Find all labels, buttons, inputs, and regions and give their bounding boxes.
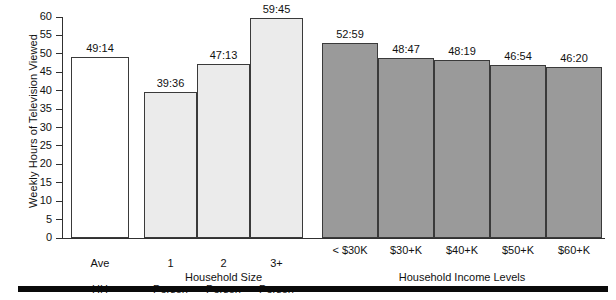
bar[interactable] xyxy=(490,65,546,238)
category-label-line1: 3+ xyxy=(250,257,303,270)
category-label-line1: Ave xyxy=(71,257,129,270)
category-label-50k: $50+K xyxy=(490,244,546,257)
bar[interactable] xyxy=(250,18,303,238)
category-label-40k: $40+K xyxy=(434,244,490,257)
tv-viewing-bar-chart: Weekly Hours of Television Viewed 605550… xyxy=(0,0,616,300)
category-label-30k: $30+K xyxy=(378,244,434,257)
bar-value-label: 59:45 xyxy=(244,3,309,15)
group-label-household-income-levels: Household Income Levels xyxy=(322,271,602,283)
category-label-under-30k: < $30K xyxy=(322,244,378,257)
bar[interactable] xyxy=(434,60,490,238)
bar-value-label: 47:13 xyxy=(191,49,256,61)
bar-value-label: 52:59 xyxy=(316,28,384,40)
bar[interactable] xyxy=(197,64,250,238)
bar[interactable] xyxy=(322,43,378,238)
bar-value-label: 46:20 xyxy=(540,52,608,64)
bar-value-label: 39:36 xyxy=(138,77,203,89)
category-label-line1: 1 xyxy=(144,257,197,270)
group-label-household-size: Household Size xyxy=(144,271,303,283)
category-label-60k: $60+K xyxy=(546,244,602,257)
bar[interactable] xyxy=(378,58,434,238)
bottom-rule xyxy=(18,286,608,292)
bar[interactable] xyxy=(546,67,602,238)
category-label-line1: 2 xyxy=(197,257,250,270)
bar[interactable] xyxy=(71,57,129,238)
bar[interactable] xyxy=(144,92,197,238)
bar-value-label: 49:14 xyxy=(65,42,135,54)
